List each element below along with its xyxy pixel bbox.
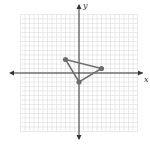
x-axis-label: x <box>144 76 149 84</box>
coordinate-plane <box>0 0 150 144</box>
x-axis-arrow-left-icon <box>9 71 14 76</box>
vertex-point <box>99 66 104 71</box>
y-axis-arrow-down-icon <box>77 135 82 140</box>
y-axis-arrow-up-icon <box>77 4 82 9</box>
vertex-point <box>63 57 68 62</box>
x-axis-arrow-right-icon <box>138 71 143 76</box>
y-axis-label: y <box>83 2 88 10</box>
vertex-point <box>76 79 81 84</box>
